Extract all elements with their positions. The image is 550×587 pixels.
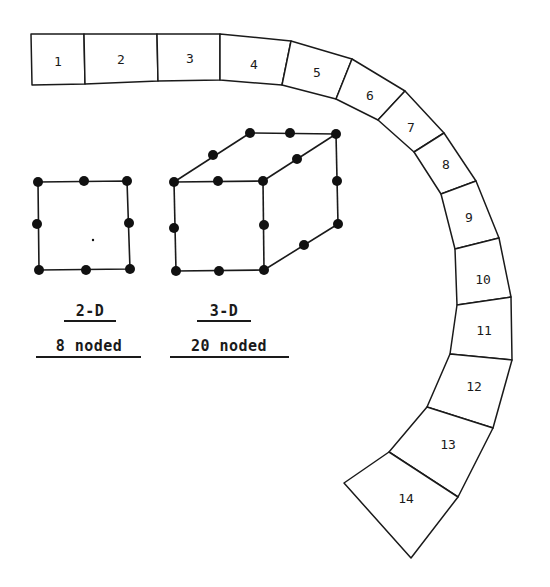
mesh-element-label: 12 <box>466 379 482 394</box>
node-dot <box>259 220 269 230</box>
mesh-element-label: 13 <box>440 437 456 452</box>
caption-2d-title: 2-D <box>76 302 105 320</box>
node-dot <box>292 154 302 164</box>
mesh-element: 9 <box>441 181 499 249</box>
finite-element-diagram: 1234567891011121314 2-D 8 noded 3-D 20 n… <box>0 0 550 587</box>
element-3d-20-noded <box>169 128 343 276</box>
node-dot <box>214 266 224 276</box>
node-dot <box>208 150 218 160</box>
node-dot <box>171 266 181 276</box>
mesh-element-label: 1 <box>54 54 62 69</box>
mesh-element-label: 8 <box>442 157 450 172</box>
node-dot <box>32 219 42 229</box>
node-dot <box>169 177 179 187</box>
mesh-element-label: 9 <box>465 210 473 225</box>
mesh-element: 11 <box>450 297 512 360</box>
mesh-element-label: 5 <box>313 65 321 80</box>
mesh-element: 1 <box>31 34 85 85</box>
caption-3d-title: 3-D <box>210 302 239 320</box>
center-dot <box>92 239 94 241</box>
mesh-element-label: 14 <box>398 491 414 506</box>
node-dot <box>124 218 134 228</box>
node-dot <box>245 128 255 138</box>
mesh-element: 4 <box>220 34 291 85</box>
element-2d-outline <box>38 181 130 270</box>
node-dot <box>333 219 343 229</box>
node-dot <box>81 265 91 275</box>
node-dot <box>331 129 341 139</box>
node-dot <box>79 176 89 186</box>
node-dot <box>332 176 342 186</box>
mesh-element-label: 3 <box>186 51 194 66</box>
node-dot <box>122 176 132 186</box>
caption-2d-subtitle: 8 noded <box>56 337 123 355</box>
mesh-element-label: 4 <box>250 57 258 72</box>
node-dot <box>33 177 43 187</box>
element-2d-8-noded <box>32 176 135 275</box>
node-dot <box>285 128 295 138</box>
node-dot <box>125 264 135 274</box>
node-dot <box>213 176 223 186</box>
mesh-element: 3 <box>157 34 220 81</box>
mesh-element: 10 <box>455 238 511 305</box>
node-dot <box>258 176 268 186</box>
caption-3d: 3-D 20 noded <box>170 302 289 357</box>
caption-2d: 2-D 8 noded <box>36 302 141 357</box>
mesh-element-label: 6 <box>366 88 374 103</box>
caption-3d-subtitle: 20 noded <box>191 337 267 355</box>
mesh-element-label: 10 <box>475 272 491 287</box>
mesh-element-label: 7 <box>407 120 415 135</box>
mesh-element-label: 11 <box>476 323 492 338</box>
curved-element-mesh: 1234567891011121314 <box>31 34 512 558</box>
mesh-element-label: 2 <box>117 52 125 67</box>
mesh-element: 2 <box>84 34 158 84</box>
node-dot <box>299 240 309 250</box>
node-dot <box>34 265 44 275</box>
node-dot <box>169 223 179 233</box>
node-dot <box>259 265 269 275</box>
